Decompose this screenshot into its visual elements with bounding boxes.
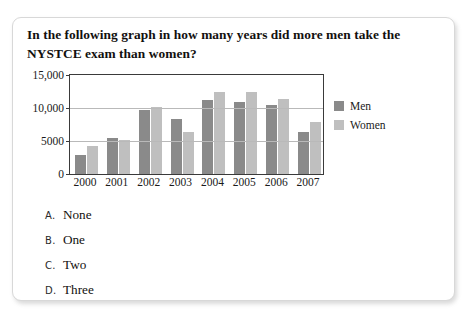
bar-chart: 0500010,00015,000 2000200120022003200420… (22, 74, 442, 194)
x-axis-tick-label: 2007 (297, 176, 320, 188)
x-axis-tick-label: 2006 (265, 176, 288, 188)
y-axis-tick-label: 0 (58, 168, 64, 180)
x-axis-tick-label: 2001 (105, 176, 128, 188)
bar-men-2007 (298, 132, 309, 174)
bars-container (70, 75, 323, 174)
y-axis-tick-label: 15,000 (32, 69, 64, 81)
bar-men-2000 (75, 155, 86, 174)
y-axis-tick-mark (66, 108, 70, 109)
answer-option-b[interactable]: B.One (45, 232, 345, 257)
x-axis-tick-label: 2000 (73, 176, 96, 188)
gridline (70, 141, 323, 142)
bar-men-2001 (107, 138, 118, 174)
option-label: One (63, 232, 85, 248)
legend-swatch-icon (334, 101, 344, 111)
legend-swatch-icon (334, 120, 344, 130)
option-label: Three (63, 282, 94, 298)
answer-option-d[interactable]: D.Three (45, 282, 345, 307)
chart-legend: MenWomen (334, 100, 434, 138)
bar-group (74, 75, 98, 174)
option-letter: C. (45, 260, 63, 271)
answer-options: A.NoneB.OneC.TwoD.Three (45, 207, 345, 307)
gridline (70, 108, 323, 109)
bar-group (138, 75, 162, 174)
y-axis-tick-mark (66, 75, 70, 76)
bar-men-2006 (266, 105, 277, 174)
legend-item-women: Women (334, 119, 434, 131)
question-text: In the following graph in how many years… (27, 26, 443, 63)
bar-men-2005 (234, 102, 245, 174)
bar-women-2005 (246, 92, 257, 174)
scan-artifact-top (0, 0, 471, 9)
bar-group (297, 75, 321, 174)
x-axis-tick-label: 2002 (137, 176, 160, 188)
bar-men-2004 (202, 100, 213, 174)
y-axis-tick-label: 10,000 (32, 102, 64, 114)
scan-artifact-text (40, 0, 43, 3)
answer-option-c[interactable]: C.Two (45, 257, 345, 282)
option-letter: D. (45, 285, 63, 296)
option-letter: A. (45, 210, 63, 221)
legend-item-men: Men (334, 100, 434, 112)
x-axis-tick-label: 2004 (201, 176, 224, 188)
bar-group (170, 75, 194, 174)
option-label: None (63, 207, 92, 223)
bar-group (233, 75, 257, 174)
x-axis: 20002001200220032004200520062007 (69, 176, 324, 192)
bar-women-2006 (278, 99, 289, 174)
plot-area (69, 74, 324, 175)
x-axis-tick-label: 2003 (169, 176, 192, 188)
legend-label: Women (350, 119, 385, 131)
bar-women-2003 (183, 132, 194, 174)
bar-women-2000 (87, 146, 98, 174)
question-card: In the following graph in how many years… (12, 17, 455, 301)
bar-group (265, 75, 289, 174)
bar-group (106, 75, 130, 174)
legend-label: Men (350, 100, 371, 112)
answer-option-a[interactable]: A.None (45, 207, 345, 232)
bar-women-2004 (214, 92, 225, 175)
bar-women-2007 (310, 122, 321, 174)
option-letter: B. (45, 235, 63, 246)
option-label: Two (63, 257, 86, 273)
y-axis: 0500010,00015,000 (22, 74, 68, 175)
bar-group (201, 75, 225, 174)
y-axis-tick-mark (66, 141, 70, 142)
bar-women-2001 (119, 140, 130, 174)
x-axis-tick-label: 2005 (233, 176, 256, 188)
bar-men-2003 (171, 119, 182, 174)
y-axis-tick-label: 5000 (41, 135, 64, 147)
y-axis-tick-mark (66, 174, 70, 175)
